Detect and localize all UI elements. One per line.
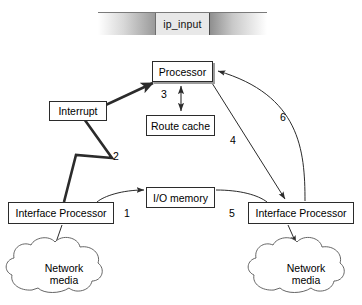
link-ifproc-right-to-network-media [288, 225, 296, 243]
edge-label-5: 5 [229, 207, 235, 219]
node-interrupt-label: Interrupt [58, 105, 97, 117]
network-media-left-line2: media [14, 274, 114, 286]
node-interface-processor-right[interactable]: Interface Processor [248, 202, 354, 224]
network-media-left-text: Network media [14, 262, 114, 286]
edge-4-processor-to-ifproc-right [212, 83, 285, 199]
node-io-memory[interactable]: I/O memory [146, 187, 215, 208]
ip-input-banner: ip_input [98, 12, 267, 35]
node-interface-processor-left-label: Interface Processor [15, 207, 106, 219]
network-media-right-line2: media [256, 274, 356, 286]
node-network-media-right[interactable]: Network media [256, 245, 356, 303]
banner-label: ip_input [163, 18, 201, 30]
node-route-cache-label: Route cache [151, 120, 210, 132]
network-media-right-line1: Network [256, 262, 356, 274]
edge-label-1: 1 [124, 207, 130, 219]
node-interrupt[interactable]: Interrupt [49, 101, 107, 121]
banner-segment-right [210, 13, 267, 35]
edge-label-2: 2 [113, 150, 119, 162]
edge-5-iomemory-to-ifproc-right [216, 190, 267, 202]
banner-segment-left [98, 13, 155, 35]
node-network-media-left[interactable]: Network media [14, 245, 114, 303]
network-media-left-line1: Network [14, 262, 114, 274]
edge-label-3: 3 [161, 88, 167, 100]
node-io-memory-label: I/O memory [153, 192, 208, 204]
edge-1-ifproc-to-iomemory [97, 190, 144, 202]
network-media-right-text: Network media [256, 262, 356, 286]
edge-label-4: 4 [230, 134, 236, 146]
node-processor-label: Processor [159, 66, 206, 78]
node-processor[interactable]: Processor [152, 61, 213, 82]
node-interface-processor-left[interactable]: Interface Processor [8, 202, 114, 224]
edge-label-6: 6 [280, 111, 286, 123]
banner-segment-middle: ip_input [155, 13, 210, 35]
node-interface-processor-right-label: Interface Processor [255, 207, 346, 219]
node-route-cache[interactable]: Route cache [146, 115, 215, 136]
diagram-canvas: ip_input [0, 0, 362, 305]
